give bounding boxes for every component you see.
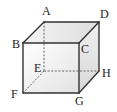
vertex-label-c: C bbox=[81, 42, 89, 56]
vertex-label-d: D bbox=[100, 7, 109, 21]
cube-diagram: ABCDEFGH bbox=[0, 0, 117, 112]
cube-faces bbox=[23, 22, 99, 93]
vertex-label-f: F bbox=[11, 87, 18, 101]
vertex-label-b: B bbox=[12, 37, 20, 51]
vertex-label-a: A bbox=[42, 4, 51, 18]
vertex-label-g: G bbox=[75, 94, 84, 108]
vertex-label-e: E bbox=[34, 61, 41, 75]
front-face bbox=[23, 43, 79, 93]
vertex-label-h: H bbox=[102, 66, 111, 80]
